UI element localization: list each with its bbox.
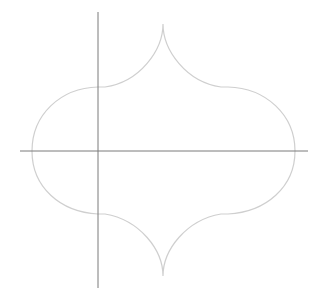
diagram-canvas (0, 0, 320, 303)
arabesque-tile-outline (32, 24, 295, 276)
